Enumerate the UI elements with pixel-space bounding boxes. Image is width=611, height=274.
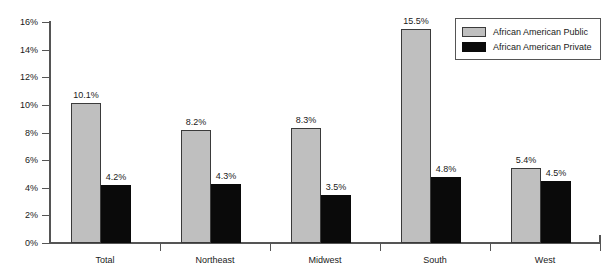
y-axis-tick xyxy=(42,22,49,23)
y-axis-tick xyxy=(42,160,49,161)
bar-northeast-private xyxy=(211,184,241,243)
bar-chart: 0%2%4%6%8%10%12%14%16%Total10.1%4.2%Nort… xyxy=(0,0,611,274)
y-axis-tick xyxy=(42,133,49,134)
x-axis-tick xyxy=(160,244,161,251)
bar-value-label: 15.5% xyxy=(390,17,442,26)
x-axis-end-tick xyxy=(599,235,601,244)
x-axis-label-total: Total xyxy=(50,255,160,265)
x-axis-label-midwest: Midwest xyxy=(270,255,380,265)
bar-value-label: 10.1% xyxy=(60,91,112,100)
bar-value-label: 3.5% xyxy=(310,183,362,192)
bar-value-label: 4.5% xyxy=(530,169,582,178)
y-axis-label: 14% xyxy=(0,46,38,55)
bar-south-public xyxy=(401,29,431,243)
bar-value-label: 8.2% xyxy=(170,118,222,127)
bar-value-label: 4.8% xyxy=(420,165,472,174)
y-axis-label: 12% xyxy=(0,73,38,82)
y-axis-tick xyxy=(42,77,49,78)
bar-total-private xyxy=(101,185,131,243)
x-axis-tick xyxy=(270,244,271,251)
bar-south-private xyxy=(431,177,461,243)
x-axis-tick xyxy=(600,244,601,251)
y-axis-label: 4% xyxy=(0,184,38,193)
y-axis-label: 6% xyxy=(0,156,38,165)
y-axis-tick xyxy=(42,243,49,244)
x-axis-label-south: South xyxy=(380,255,490,265)
y-axis-label: 2% xyxy=(0,211,38,220)
x-axis-label-northeast: Northeast xyxy=(160,255,270,265)
x-axis-tick xyxy=(380,244,381,251)
bar-value-label: 4.3% xyxy=(200,172,252,181)
legend-swatch-public-icon xyxy=(462,27,486,37)
y-axis-label: 10% xyxy=(0,101,38,110)
y-axis-label: 16% xyxy=(0,18,38,27)
y-axis-tick xyxy=(42,50,49,51)
bar-west-private xyxy=(541,181,571,243)
bar-west-public xyxy=(511,168,541,243)
legend-entry-private: African American Private xyxy=(462,39,600,54)
legend-swatch-private-icon xyxy=(462,42,486,52)
y-axis-line xyxy=(49,21,51,244)
chart-legend: African American Public African American… xyxy=(455,18,601,60)
y-axis-label: 8% xyxy=(0,129,38,138)
legend-entry-public: African American Public xyxy=(462,24,600,39)
y-axis-tick xyxy=(42,105,49,106)
bar-northeast-public xyxy=(181,130,211,243)
legend-label-private: African American Private xyxy=(493,42,592,52)
y-axis-tick xyxy=(42,188,49,189)
bar-value-label: 8.3% xyxy=(280,116,332,125)
bar-value-label: 5.4% xyxy=(500,156,552,165)
y-axis-tick xyxy=(42,215,49,216)
x-axis-tick xyxy=(490,244,491,251)
x-axis-label-west: West xyxy=(490,255,600,265)
bar-midwest-private xyxy=(321,195,351,243)
y-axis-label: 0% xyxy=(0,239,38,248)
bar-value-label: 4.2% xyxy=(90,173,142,182)
legend-label-public: African American Public xyxy=(493,27,588,37)
